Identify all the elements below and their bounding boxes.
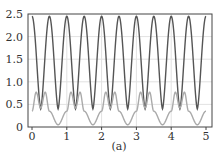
grid-lines	[28, 14, 212, 127]
x-tick-label: 2	[98, 130, 105, 143]
x-tick-label: 1	[63, 130, 70, 143]
chart-caption: (a)	[111, 140, 126, 153]
x-tick-label: 5	[203, 130, 210, 143]
y-axis-ticks: 00.51.01.52.02.5	[6, 8, 24, 134]
y-tick-label: 1.0	[6, 76, 24, 89]
y-tick-label: 2.0	[6, 31, 24, 44]
y-tick-label: 1.5	[6, 53, 24, 66]
x-tick-label: 0	[29, 130, 36, 143]
dark-series-line	[32, 16, 206, 109]
plot-curves	[32, 16, 206, 124]
y-tick-label: 2.5	[6, 8, 24, 21]
y-tick-label: 0	[16, 121, 23, 134]
x-tick-label: 3	[133, 130, 140, 143]
line-chart: 00.51.01.52.02.5 012345 (a)	[0, 0, 221, 163]
x-tick-label: 4	[168, 130, 175, 143]
y-tick-label: 0.5	[6, 98, 24, 111]
plot-frame	[28, 14, 212, 127]
